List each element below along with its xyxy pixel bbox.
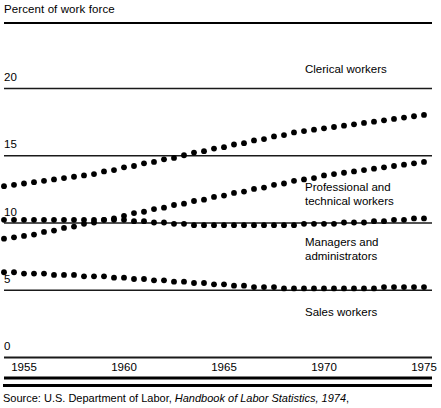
data-point: [111, 275, 117, 281]
data-point: [111, 167, 117, 173]
data-point: [381, 284, 387, 290]
series-label-clerical: Clerical workers: [305, 63, 387, 77]
series-label-managers-line1: Managers and: [305, 236, 379, 250]
data-point: [281, 181, 287, 187]
data-point: [11, 234, 17, 240]
data-point: [221, 281, 227, 287]
data-point: [331, 171, 337, 177]
data-point: [21, 217, 27, 223]
data-point: [391, 163, 397, 169]
data-point: [201, 222, 207, 228]
data-point: [161, 205, 167, 211]
data-point: [121, 217, 127, 223]
data-point: [151, 206, 157, 212]
y-tick-label-0: 0: [4, 340, 10, 352]
data-point: [341, 286, 347, 292]
data-point: [1, 183, 7, 189]
data-point: [151, 277, 157, 283]
data-point: [311, 127, 317, 133]
data-point: [121, 275, 127, 281]
data-point: [361, 167, 367, 173]
data-point: [281, 286, 287, 292]
data-point: [341, 170, 347, 176]
data-point: [231, 222, 237, 228]
data-point: [1, 236, 7, 242]
data-point: [391, 217, 397, 223]
data-point: [341, 123, 347, 129]
data-point: [371, 286, 377, 292]
data-point: [41, 178, 47, 184]
data-point: [201, 280, 207, 286]
x-tick-label-1970: 1970: [299, 361, 349, 373]
data-point: [411, 160, 417, 166]
data-point: [201, 148, 207, 154]
data-point: [21, 181, 27, 187]
data-point: [331, 221, 337, 227]
data-point: [31, 232, 37, 238]
data-point: [71, 272, 77, 278]
data-point: [271, 182, 277, 188]
data-point: [321, 286, 327, 292]
data-point: [371, 166, 377, 172]
data-point: [401, 217, 407, 223]
data-point: [371, 218, 377, 224]
data-point: [191, 150, 197, 156]
data-point: [241, 140, 247, 146]
series-label-sales: Sales workers: [305, 306, 377, 320]
data-point: [391, 116, 397, 122]
data-point: [211, 194, 217, 200]
source-suffix: ,: [346, 392, 349, 404]
data-point: [221, 222, 227, 228]
data-point: [261, 185, 267, 191]
data-point: [131, 218, 137, 224]
series-label-professional-line2: technical workers: [305, 195, 394, 209]
source-publication: Handbook of Labor Statistics, 1974: [175, 392, 346, 404]
data-point: [391, 284, 397, 290]
data-point: [31, 217, 37, 223]
data-point: [141, 209, 147, 215]
data-point: [121, 164, 127, 170]
data-point: [191, 280, 197, 286]
data-point: [181, 201, 187, 207]
data-point: [341, 220, 347, 226]
data-point: [251, 284, 257, 290]
data-point: [251, 186, 257, 192]
data-point: [181, 152, 187, 158]
data-point: [221, 193, 227, 199]
data-point: [311, 286, 317, 292]
data-point: [321, 221, 327, 227]
data-point: [61, 175, 67, 181]
data-point: [1, 217, 7, 223]
data-point: [41, 229, 47, 235]
data-point: [61, 217, 67, 223]
data-point: [291, 222, 297, 228]
data-point: [51, 177, 57, 183]
data-point: [11, 182, 17, 188]
data-point: [321, 125, 327, 131]
y-tick-label-15: 15: [4, 138, 17, 150]
data-point: [91, 273, 97, 279]
data-point: [211, 222, 217, 228]
data-point: [401, 284, 407, 290]
data-point: [291, 178, 297, 184]
data-point: [381, 164, 387, 170]
data-point: [231, 142, 237, 148]
data-point: [91, 171, 97, 177]
data-point: [321, 173, 327, 179]
x-tick-label-1975: 1975: [399, 361, 441, 373]
data-point: [101, 168, 107, 174]
data-point: [151, 220, 157, 226]
source-note: Source: U.S. Department of Labor, Handbo…: [3, 392, 349, 404]
data-point: [401, 115, 407, 121]
data-point: [131, 210, 137, 216]
data-point: [351, 168, 357, 174]
series-label-professional: Professional and technical workers: [305, 181, 394, 208]
data-point: [141, 160, 147, 166]
data-point: [421, 159, 427, 165]
data-point: [241, 189, 247, 195]
data-point: [181, 279, 187, 285]
data-point: [91, 217, 97, 223]
data-point: [151, 159, 157, 165]
data-point: [221, 144, 227, 150]
